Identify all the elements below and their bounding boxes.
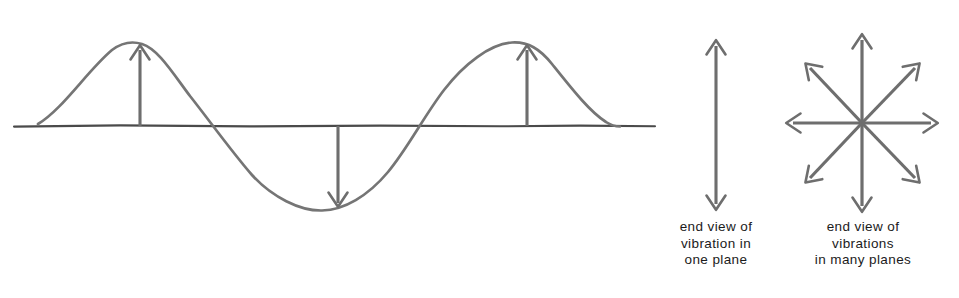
caption-one-plane-line-1: end view of bbox=[646, 219, 786, 236]
starburst-arrow-up-right bbox=[862, 57, 926, 123]
starburst-arrow-left bbox=[786, 114, 862, 133]
displacement-arrow-up-crest-1 bbox=[131, 45, 150, 126]
starburst-arrow-up-left bbox=[799, 57, 862, 123]
starburst-arrow-down-right bbox=[862, 123, 926, 189]
starburst-arrow-down-left bbox=[799, 123, 862, 189]
wave-panel bbox=[14, 42, 655, 210]
starburst-arrow-down bbox=[853, 123, 872, 212]
caption-vibrations-many-planes: end view of vibrations in many planes bbox=[783, 219, 943, 269]
displacement-arrow-down-trough bbox=[329, 126, 348, 207]
single-plane-vibration-arrow bbox=[707, 40, 726, 210]
caption-many-planes-line-2: vibrations bbox=[783, 236, 943, 253]
displacement-arrow-up-crest-2 bbox=[518, 45, 537, 126]
caption-one-plane-line-3: one plane bbox=[646, 252, 786, 269]
many-planes-vibration-starburst bbox=[786, 34, 938, 212]
wave-vibration-figure: end view of vibration in one plane end v… bbox=[0, 0, 959, 298]
caption-vibration-one-plane: end view of vibration in one plane bbox=[646, 219, 786, 269]
caption-one-plane-line-2: vibration in bbox=[646, 236, 786, 253]
wave-baseline bbox=[14, 125, 655, 126]
caption-many-planes-line-3: in many planes bbox=[783, 252, 943, 269]
starburst-arrow-right bbox=[862, 114, 938, 133]
caption-many-planes-line-1: end view of bbox=[783, 219, 943, 236]
starburst-arrow-up bbox=[853, 34, 872, 123]
